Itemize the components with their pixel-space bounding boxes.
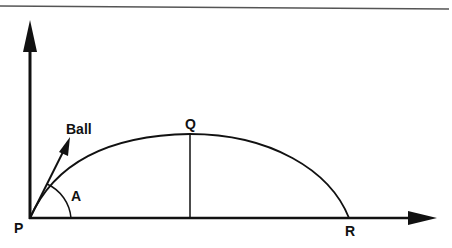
horizontal-axis-arrowhead (408, 211, 437, 225)
angle-arc (47, 184, 71, 218)
label-q: Q (185, 116, 196, 132)
top-rule (0, 6, 449, 9)
label-p: P (14, 220, 23, 236)
label-ball: Ball (66, 121, 92, 137)
projectile-diagram: Ball Q A P R (0, 0, 452, 248)
label-a: A (71, 188, 81, 204)
ball-arrowhead (59, 137, 70, 156)
vertical-axis-arrowhead (23, 20, 37, 52)
label-r: R (345, 223, 355, 239)
